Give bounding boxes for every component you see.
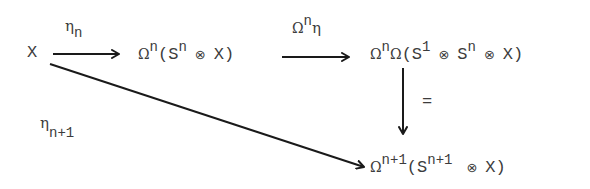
node-x: X [27,44,37,61]
omega-exponent: n [304,13,312,29]
label-eta-n-plus-1: ηn+1 [40,115,74,132]
omega-symbol: Ω [370,159,382,175]
label-eta-n: ηn [65,18,82,35]
s1-exponent: 1 [422,39,430,55]
omega-symbol: Ω [138,46,150,62]
open-paren-s: (S [407,158,427,177]
otimes-icon: ⊗ [438,47,449,62]
equals-symbol: = [422,92,432,111]
otimes-icon-2: ⊗ [484,47,495,62]
omega-exponent: n [150,39,158,55]
node-omega-n-omega-s1-sn-x: ΩnΩ(S1⊗Sn⊗X) [370,46,523,63]
node-x-label: X [27,43,37,62]
s-exponent: n+1 [427,152,452,168]
open-paren-s: (S [158,45,178,64]
x-close-paren: X) [214,45,234,64]
label-equals: = [422,93,432,110]
eta-symbol: η [312,19,321,37]
eta-subscript: n+1 [49,125,74,141]
otimes-icon: ⊗ [195,47,206,62]
arrow-eta-n-plus-1 [50,64,364,167]
omega-exponent: n+1 [382,152,407,168]
eta-symbol: η [40,114,49,132]
x-close-paren: X) [485,158,505,177]
s-symbol: S [457,45,467,64]
node-omega-n1-sn1-x: Ωn+1(Sn+1⊗X) [370,159,506,176]
omega-symbol: Ω [370,46,382,62]
sn-exponent: n [468,39,476,55]
omega-exponent: n [382,39,390,55]
x-close-paren: X) [503,45,523,64]
commutative-diagram: X ηn Ωn(Sn⊗X) Ωnη ΩnΩ(S1⊗Sn⊗X) = ηn+1 Ωn… [0,0,590,189]
eta-subscript: n [74,25,82,41]
omega-symbol: Ω [292,20,304,36]
s-exponent: n [178,39,186,55]
otimes-icon: ⊗ [466,160,477,175]
open-paren-s: (S [402,45,422,64]
label-omega-n-eta: Ωnη [292,20,321,37]
omega-symbol-2: Ω [390,46,402,62]
eta-symbol: η [65,17,74,35]
node-omega-n-sn-x: Ωn(Sn⊗X) [138,46,234,63]
